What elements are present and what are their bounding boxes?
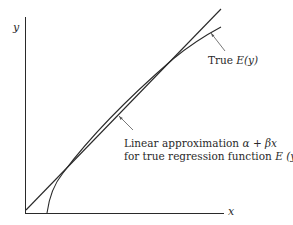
true-curve-label: True E(y) bbox=[208, 54, 258, 66]
linear-approximation-line bbox=[26, 9, 221, 210]
linear-label-line2: for true regression function E (y) bbox=[124, 150, 293, 162]
linear-label-line1: Linear approximation α + βx bbox=[124, 137, 277, 149]
x-axis-label: x bbox=[228, 205, 235, 218]
regression-diagram: y x True E(y) Linear approximation α + β… bbox=[0, 0, 293, 225]
true-regression-curve bbox=[47, 27, 221, 213]
y-axis-label: y bbox=[12, 21, 20, 34]
